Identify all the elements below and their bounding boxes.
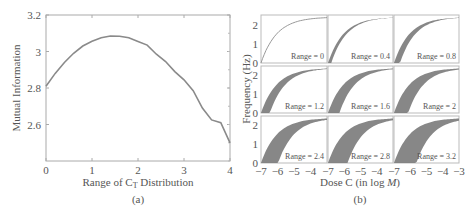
subplot-range-1-2: Range = 1.2012 xyxy=(253,66,328,119)
subplot-range-2: Range = 2 xyxy=(394,66,459,113)
xtick-label: −4 xyxy=(437,165,449,177)
subplot-range-1-6: Range = 1.6 xyxy=(328,66,393,113)
xtick-label: −5 xyxy=(288,165,300,177)
ytick-label: 2 xyxy=(253,69,259,81)
xtick-label: 3 xyxy=(181,164,187,176)
ytick-label: 0 xyxy=(253,57,259,69)
ytick-label: 1 xyxy=(253,88,259,100)
figure: 2.62.833.2 01234 Mutual Information Rang… xyxy=(0,0,475,213)
xtick-label: 1 xyxy=(89,164,95,176)
xtick-label: −6 xyxy=(272,165,284,177)
panel-label: Range = 2.8 xyxy=(351,152,390,161)
panel-label: Range = 0.4 xyxy=(351,52,390,61)
ytick-label: 3.2 xyxy=(27,9,41,21)
subplot-range-2-8: Range = 2.8−7−6−5−4 xyxy=(322,116,393,177)
plot-a-ytick-labels: 2.62.833.2 xyxy=(27,9,41,131)
xtick-label: −3 xyxy=(453,165,465,177)
xtick-label: −5 xyxy=(421,165,433,177)
xtick-label: 2 xyxy=(135,164,141,176)
ytick-label: 3 xyxy=(36,46,42,58)
subplot-range-2-4: Range = 2.4012−7−6−5−4 xyxy=(253,116,328,177)
panel-label: Range = 1.2 xyxy=(285,102,324,111)
ytick-label: 2.6 xyxy=(27,119,41,131)
plot-a-xtick-labels: 01234 xyxy=(43,164,233,176)
panel-label: Range = 1.6 xyxy=(351,102,390,111)
ytick-label: 2.8 xyxy=(27,82,41,94)
xtick-label: −7 xyxy=(255,165,267,177)
ytick-label: 1 xyxy=(253,38,259,50)
plot-a-ticks xyxy=(46,15,230,161)
caption-b: (b) xyxy=(354,193,367,206)
plot-b-xlabel: Dose C (in log M) xyxy=(320,176,400,189)
panel-label: Range = 0 xyxy=(291,52,324,61)
caption-a: (a) xyxy=(132,193,145,206)
subplot-range-0-4: Range = 0.4 xyxy=(328,15,393,63)
xtick-label: 0 xyxy=(43,164,49,176)
panel-label: Range = 2.4 xyxy=(285,152,324,161)
ytick-label: 2 xyxy=(253,19,259,31)
plot-b-ylabel: Frequency (Hz) xyxy=(240,54,253,124)
mutual-information-line xyxy=(46,36,230,143)
subplot-range-0: Range = 0012 xyxy=(253,15,328,69)
xtick-label: −4 xyxy=(305,165,317,177)
small-multiples-grid: Range = 0012Range = 0.4Range = 0.8Range … xyxy=(253,15,466,177)
plot-a-frame xyxy=(46,15,230,161)
panel-label: Range = 3.2 xyxy=(417,152,456,161)
panel-label: Range = 0.8 xyxy=(417,52,456,61)
xtick-label: 4 xyxy=(227,164,233,176)
ytick-label: 2 xyxy=(253,119,259,131)
xtick-label: −6 xyxy=(404,165,416,177)
ytick-label: 0 xyxy=(253,107,259,119)
panel-label: Range = 2 xyxy=(423,102,456,111)
panel-b: Range = 0012Range = 0.4Range = 0.8Range … xyxy=(240,15,465,206)
subplot-range-3-2: Range = 3.2−7−6−5−4−3 xyxy=(388,116,465,177)
ytick-label: 1 xyxy=(253,138,259,150)
panel-a: 2.62.833.2 01234 Mutual Information Rang… xyxy=(10,9,233,206)
plot-a-xlabel: Range of CT Distribution xyxy=(83,176,194,190)
plot-a-ylabel: Mutual Information xyxy=(10,44,22,132)
subplot-range-0-8: Range = 0.8 xyxy=(394,15,459,63)
